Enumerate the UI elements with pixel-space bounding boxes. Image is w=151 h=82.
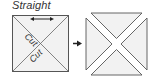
left-square <box>13 16 69 72</box>
diagram-canvas: Cut Cut <box>0 0 151 82</box>
right-square-pieces <box>86 13 147 75</box>
right-arrow-icon <box>73 41 82 47</box>
